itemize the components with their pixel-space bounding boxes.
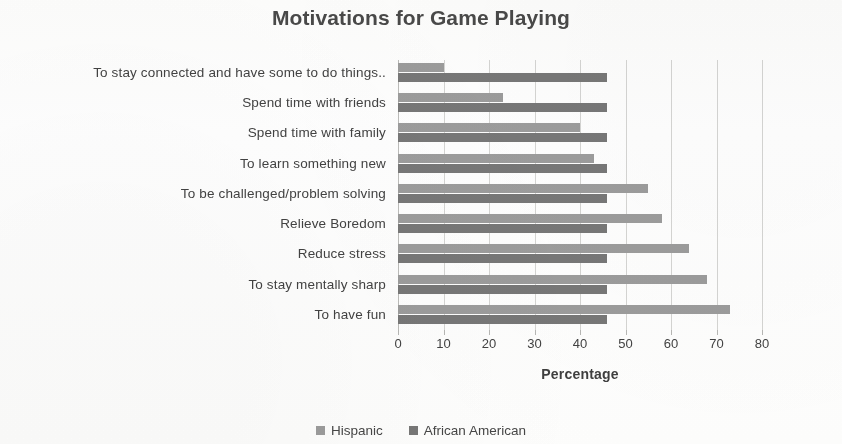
- bar-hispanic: [398, 93, 503, 102]
- tick-mark-30: [535, 330, 536, 335]
- chart-title: Motivations for Game Playing: [0, 6, 842, 30]
- bar-africanamerican: [398, 285, 607, 294]
- bar-group: [398, 275, 762, 295]
- bar-africanamerican: [398, 133, 607, 142]
- category-label: Relieve Boredom: [280, 216, 386, 231]
- legend-label: African American: [424, 423, 526, 438]
- category-label: To stay mentally sharp: [248, 277, 386, 292]
- legend-label: Hispanic: [331, 423, 383, 438]
- tick-mark-80: [762, 330, 763, 335]
- bar-hispanic: [398, 123, 580, 132]
- bar-africanamerican: [398, 224, 607, 233]
- bar-group: [398, 123, 762, 143]
- tick-mark-50: [626, 330, 627, 335]
- bar-africanamerican: [398, 254, 607, 263]
- bar-hispanic: [398, 63, 444, 72]
- bar-hispanic: [398, 244, 689, 253]
- x-tick-label-0: 0: [394, 336, 401, 351]
- tick-mark-70: [717, 330, 718, 335]
- legend-item[interactable]: Hispanic: [316, 423, 383, 438]
- category-label: To stay connected and have some to do th…: [93, 65, 386, 80]
- bar-africanamerican: [398, 315, 607, 324]
- x-tick-label-10: 10: [436, 336, 450, 351]
- bar-hispanic: [398, 214, 662, 223]
- chart-container: Motivations for Game Playing To stay con…: [0, 0, 842, 444]
- category-label: Spend time with family: [248, 125, 386, 140]
- gridline-80: [762, 60, 763, 332]
- category-label: Reduce stress: [298, 246, 386, 261]
- legend-item[interactable]: African American: [409, 423, 526, 438]
- category-label: Spend time with friends: [242, 95, 386, 110]
- bar-hispanic: [398, 275, 707, 284]
- tick-mark-0: [398, 330, 399, 335]
- bar-group: [398, 214, 762, 234]
- category-label: To have fun: [315, 307, 386, 322]
- bar-hispanic: [398, 305, 730, 314]
- bar-africanamerican: [398, 73, 607, 82]
- x-tick-label-40: 40: [573, 336, 587, 351]
- bar-group: [398, 154, 762, 174]
- bar-africanamerican: [398, 194, 607, 203]
- bar-africanamerican: [398, 103, 607, 112]
- category-label: To be challenged/problem solving: [181, 186, 386, 201]
- bar-group: [398, 93, 762, 113]
- x-tick-label-80: 80: [755, 336, 769, 351]
- value-axis-ticks: 01020304050607080: [398, 336, 762, 356]
- category-axis-labels: To stay connected and have some to do th…: [0, 60, 392, 332]
- bar-group: [398, 244, 762, 264]
- plot-area: [398, 60, 762, 332]
- bar-africanamerican: [398, 164, 607, 173]
- category-label: To learn something new: [240, 156, 386, 171]
- x-axis-title: Percentage: [398, 366, 762, 382]
- bar-group: [398, 63, 762, 83]
- tick-mark-60: [671, 330, 672, 335]
- bar-hispanic: [398, 184, 648, 193]
- legend-swatch-icon: [316, 426, 325, 435]
- tick-mark-40: [580, 330, 581, 335]
- bar-hispanic: [398, 154, 594, 163]
- x-tick-label-50: 50: [618, 336, 632, 351]
- x-tick-label-60: 60: [664, 336, 678, 351]
- x-tick-label-20: 20: [482, 336, 496, 351]
- bar-group: [398, 184, 762, 204]
- tick-mark-10: [444, 330, 445, 335]
- tick-mark-20: [489, 330, 490, 335]
- chart-legend: HispanicAfrican American: [0, 423, 842, 438]
- legend-swatch-icon: [409, 426, 418, 435]
- x-tick-label-30: 30: [527, 336, 541, 351]
- x-tick-label-70: 70: [709, 336, 723, 351]
- bar-group: [398, 305, 762, 325]
